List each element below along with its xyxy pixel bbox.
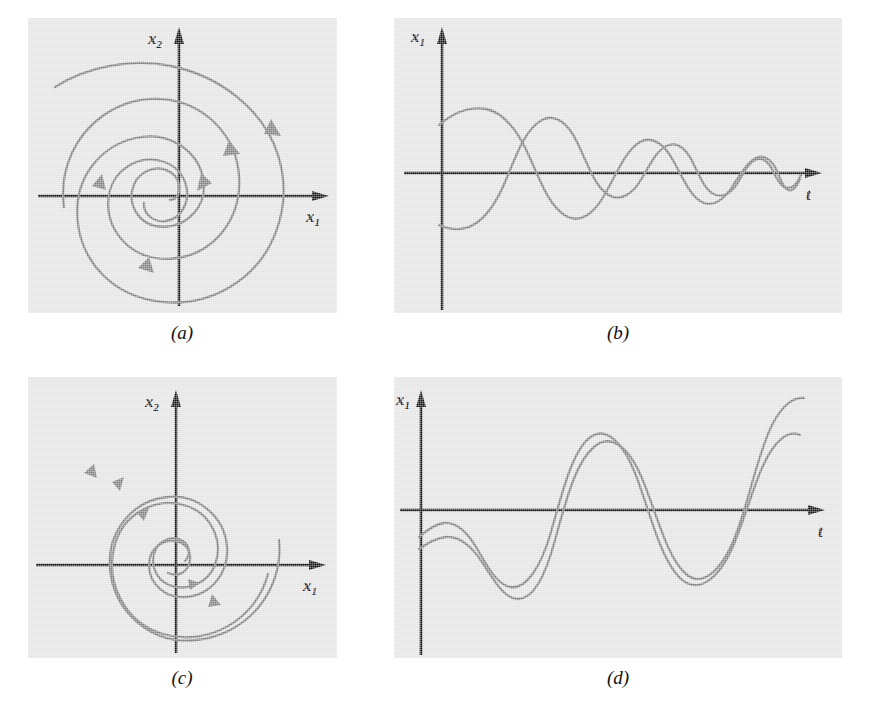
- panel-a-y-axis-label: x2: [147, 29, 163, 50]
- panel-d-x-axis-label: t: [818, 522, 824, 541]
- panel-d-horizontal-axis: [400, 505, 825, 515]
- panel-a-trajectory-inner: [63, 99, 239, 259]
- panel-c-arrow-2: [208, 594, 221, 607]
- panel-a-arrow-5: [138, 257, 154, 273]
- panel-b-horizontal-axis: [404, 168, 822, 178]
- panel-d-time-response-growing: x1 t: [394, 377, 842, 658]
- panel-d-svg: x1 t: [394, 377, 842, 658]
- panel-c-y-axis-label: x2: [144, 392, 160, 413]
- panel-d-trajectories: [419, 398, 804, 599]
- panel-b-svg: x1 t: [394, 18, 842, 313]
- panel-b-curve-1: [439, 108, 800, 219]
- panel-d-curve-1: [419, 398, 804, 599]
- panel-c-phase-portrait-unstable-focus: x2 x1: [28, 377, 337, 658]
- panel-c-arrow-4: [112, 477, 124, 491]
- panel-a-horizontal-axis: [38, 191, 329, 201]
- panel-a-x-axis-label: x1: [305, 207, 320, 228]
- panel-c-x-axis-label: x1: [302, 576, 317, 597]
- panel-a-arrow-2: [223, 140, 240, 156]
- caption-b: (b): [588, 322, 648, 344]
- panel-d-y-axis-label: x1: [395, 390, 410, 411]
- panel-c-svg: x2 x1: [28, 377, 337, 658]
- panel-a-arrow-1: [264, 119, 281, 136]
- panel-c-direction-arrows: [84, 464, 221, 607]
- panel-a-arrow-4: [92, 174, 106, 190]
- caption-d: (d): [588, 667, 648, 689]
- panel-b-time-response-decaying: x1 t: [394, 18, 842, 313]
- panel-c-trajectories: [110, 497, 280, 641]
- panel-a-phase-portrait-stable-focus: x2 x1: [28, 18, 337, 313]
- panel-b-trajectories: [439, 108, 801, 229]
- panel-a-svg: x2 x1: [28, 18, 337, 313]
- panel-c-horizontal-axis: [36, 560, 326, 570]
- panel-b-vertical-axis: [437, 27, 447, 310]
- panel-c-trajectory-2: [112, 503, 268, 637]
- figure-four-panel-phase-and-time-plots: x2 x1 (a): [0, 0, 869, 716]
- panel-a-trajectories: [55, 63, 283, 303]
- panel-c-vertical-axis: [171, 390, 181, 653]
- panel-b-y-axis-label: x1: [410, 27, 425, 48]
- panel-d-vertical-axis: [416, 390, 426, 655]
- panel-c-arrow-5: [84, 464, 97, 478]
- panel-b-x-axis-label: t: [806, 185, 812, 204]
- caption-c: (c): [152, 667, 212, 689]
- caption-a: (a): [152, 322, 212, 344]
